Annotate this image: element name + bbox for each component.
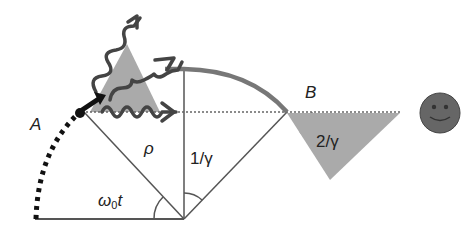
label-omega: ω: [98, 191, 111, 210]
label-angle-omega-t: ω0t: [98, 192, 122, 211]
label-angle-one-over-gamma: 1/γ: [190, 150, 213, 167]
diagram-canvas: [0, 0, 475, 232]
angle-arc-omega: [154, 197, 163, 219]
label-angle-two-over-gamma: 2/γ: [316, 133, 339, 150]
observer-eye-right: [444, 105, 448, 109]
label-point-b: B: [305, 84, 316, 101]
emission-cone-b: [287, 113, 400, 180]
label-radius-rho: ρ: [144, 140, 154, 157]
orbit-dotted-arc: [36, 112, 80, 219]
observer-face: [420, 93, 460, 133]
label-t: t: [117, 191, 122, 210]
label-point-a: A: [30, 116, 41, 133]
observer-eye-left: [432, 105, 436, 109]
angle-arc-gamma: [184, 193, 202, 200]
